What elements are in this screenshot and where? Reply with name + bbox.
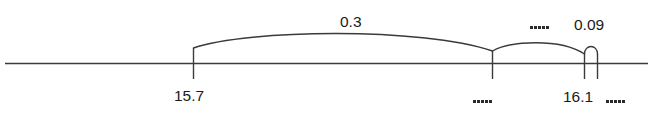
dot-glyph — [534, 26, 537, 29]
dot-glyph — [622, 100, 625, 103]
arc-label-0-09: 0.09 — [574, 17, 604, 33]
number-line-figure: 0.3 0.09 15.7 16.1 — [0, 0, 654, 115]
dot-glyph — [485, 100, 488, 103]
dot-glyph — [538, 26, 541, 29]
dot-glyph — [530, 26, 533, 29]
arc-label-0-3: 0.3 — [340, 14, 362, 30]
tick-label-16-1: 16.1 — [563, 89, 593, 105]
dot-glyph — [481, 100, 484, 103]
dot-glyph — [610, 100, 613, 103]
dot-glyph — [614, 100, 617, 103]
dot-glyph — [477, 100, 480, 103]
arc-small — [585, 47, 598, 55]
dot-glyph — [473, 100, 476, 103]
tick-label-redacted-dots-1 — [473, 100, 492, 103]
number-line-drawing — [0, 0, 654, 115]
dot-glyph — [546, 26, 549, 29]
dot-glyph — [489, 100, 492, 103]
dot-glyph — [618, 100, 621, 103]
tick-label-redacted-dots-2 — [606, 100, 625, 103]
arc-label-redacted-dots — [530, 26, 549, 29]
dot-glyph — [542, 26, 545, 29]
tick-label-15-7: 15.7 — [174, 88, 204, 104]
arc-large — [194, 34, 493, 51]
dot-glyph — [606, 100, 609, 103]
arc-medium — [493, 43, 585, 54]
